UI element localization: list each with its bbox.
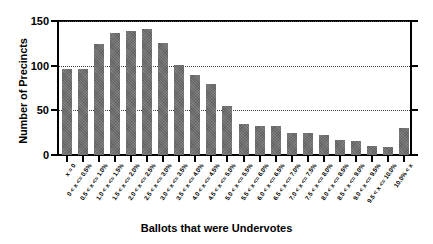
bar bbox=[222, 106, 232, 155]
y-axis-tick-label: 50 bbox=[37, 104, 49, 116]
bar bbox=[287, 133, 297, 155]
y-axis-tick-label: 150 bbox=[31, 15, 49, 27]
bar-slot bbox=[171, 21, 187, 155]
bar bbox=[399, 128, 409, 155]
bar-slot bbox=[268, 21, 284, 155]
bar-slot bbox=[300, 21, 316, 155]
x-axis-tick-label: x = 0 bbox=[63, 162, 77, 177]
bar bbox=[62, 69, 72, 155]
bar-series bbox=[57, 21, 412, 155]
bar bbox=[142, 29, 152, 155]
bar bbox=[190, 75, 200, 155]
bar bbox=[335, 140, 345, 155]
bar-slot bbox=[316, 21, 332, 155]
bar bbox=[319, 135, 329, 155]
bar bbox=[255, 126, 265, 155]
bar-slot bbox=[75, 21, 91, 155]
bar bbox=[383, 147, 393, 155]
y-axis-tick-label: 0 bbox=[43, 149, 49, 161]
bar-slot bbox=[332, 21, 348, 155]
bar bbox=[367, 146, 377, 155]
y-axis-tick-right bbox=[411, 65, 418, 67]
bar-chart-figure: Number of Precincts 050100150 x = 00 < x… bbox=[0, 0, 433, 244]
bar-slot bbox=[284, 21, 300, 155]
y-axis-tick-right bbox=[411, 109, 418, 111]
x-axis-tick-labels: x = 00 < x <= 0.5%0.5 < x <= 1.0%1.0 < x… bbox=[57, 162, 412, 220]
bar bbox=[110, 33, 120, 155]
bar-slot bbox=[59, 21, 75, 155]
bar bbox=[126, 31, 136, 155]
x-axis-title: Ballots that were Undervotes bbox=[0, 222, 433, 234]
y-axis-tick-label: 100 bbox=[31, 60, 49, 72]
y-axis-title: Number of Precincts bbox=[17, 16, 29, 166]
bar bbox=[239, 124, 249, 155]
bar bbox=[94, 44, 104, 155]
bar-slot bbox=[219, 21, 235, 155]
bar bbox=[158, 43, 168, 155]
bar-slot bbox=[203, 21, 219, 155]
bar-slot bbox=[123, 21, 139, 155]
y-axis-tick-right bbox=[411, 154, 418, 156]
bar bbox=[271, 126, 281, 155]
bar bbox=[174, 65, 184, 155]
bar-slot bbox=[348, 21, 364, 155]
bar bbox=[206, 84, 216, 155]
bar-slot bbox=[187, 21, 203, 155]
bar-slot bbox=[396, 21, 412, 155]
bar bbox=[303, 133, 313, 155]
bar bbox=[78, 69, 88, 155]
bar-slot bbox=[91, 21, 107, 155]
bar-slot bbox=[252, 21, 268, 155]
plot-area: 050100150 bbox=[57, 21, 412, 155]
y-axis-tick-right bbox=[411, 20, 418, 22]
bar-slot bbox=[139, 21, 155, 155]
bar-slot bbox=[107, 21, 123, 155]
bar bbox=[351, 141, 361, 155]
bar-slot bbox=[236, 21, 252, 155]
bar-slot bbox=[380, 21, 396, 155]
bar-slot bbox=[155, 21, 171, 155]
bar-slot bbox=[364, 21, 380, 155]
